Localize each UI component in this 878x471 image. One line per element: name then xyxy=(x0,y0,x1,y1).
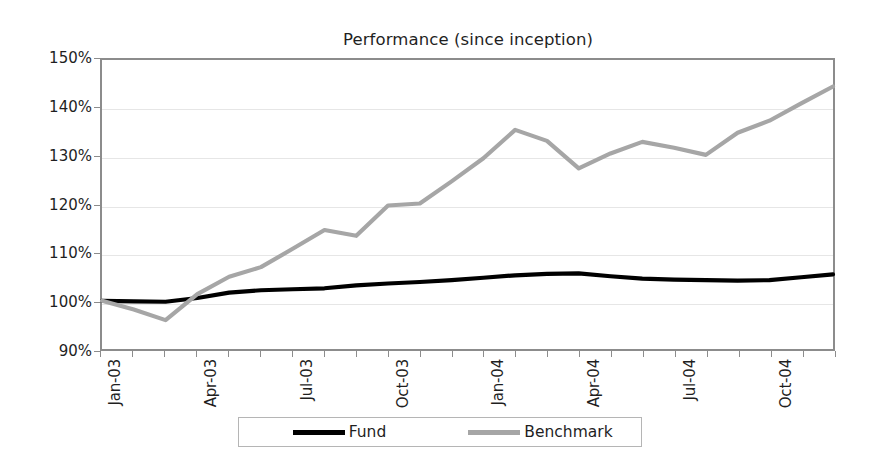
legend-label: Fund xyxy=(349,423,387,441)
x-tick-mark xyxy=(356,351,357,357)
x-tick-mark xyxy=(515,351,516,357)
x-tick-mark xyxy=(132,351,133,357)
x-tick-mark xyxy=(547,351,548,357)
x-tick-mark xyxy=(675,351,676,357)
chart-legend: FundBenchmark xyxy=(238,417,642,447)
x-tick-mark xyxy=(611,351,612,357)
x-tick-mark xyxy=(196,351,197,357)
plot-area xyxy=(100,58,835,351)
x-tick-mark xyxy=(483,351,484,357)
x-tick-mark xyxy=(420,351,421,357)
x-tick-mark xyxy=(292,351,293,357)
x-tick-label: Jul-04 xyxy=(681,359,699,400)
x-tick-mark xyxy=(803,351,804,357)
x-tick-label: Apr-03 xyxy=(202,359,220,407)
x-tick-label: Apr-04 xyxy=(585,359,603,407)
x-tick-mark xyxy=(643,351,644,357)
x-tick-mark xyxy=(228,351,229,357)
x-tick-mark xyxy=(739,351,740,357)
chart-title: Performance (since inception) xyxy=(100,30,836,49)
x-tick-label: Oct-04 xyxy=(777,359,795,408)
x-axis-ticks xyxy=(100,351,835,359)
x-tick-label: Jul-03 xyxy=(298,359,316,400)
series-lines xyxy=(102,60,833,349)
x-tick-label: Oct-03 xyxy=(394,359,412,408)
performance-chart: Performance (since inception) 90%100%110… xyxy=(0,0,878,471)
legend-swatch-icon xyxy=(468,430,520,435)
legend-entry-benchmark: Benchmark xyxy=(440,423,641,441)
x-tick-label: Jan-03 xyxy=(106,359,124,405)
legend-label: Benchmark xyxy=(524,423,612,441)
legend-swatch-icon xyxy=(293,430,345,435)
x-tick-mark xyxy=(260,351,261,357)
x-tick-mark xyxy=(100,351,101,357)
x-axis-labels: Jan-03Apr-03Jul-03Oct-03Jan-04Apr-04Jul-… xyxy=(100,359,835,409)
series-line-benchmark xyxy=(102,86,833,320)
x-tick-mark xyxy=(835,351,836,357)
x-tick-mark xyxy=(771,351,772,357)
y-axis-ticks xyxy=(0,58,104,351)
x-tick-label: Jan-04 xyxy=(489,359,507,405)
x-tick-mark xyxy=(707,351,708,357)
legend-entry-fund: Fund xyxy=(239,423,440,441)
x-tick-mark xyxy=(164,351,165,357)
x-tick-mark xyxy=(324,351,325,357)
x-tick-mark xyxy=(452,351,453,357)
x-tick-mark xyxy=(579,351,580,357)
x-tick-mark xyxy=(388,351,389,357)
